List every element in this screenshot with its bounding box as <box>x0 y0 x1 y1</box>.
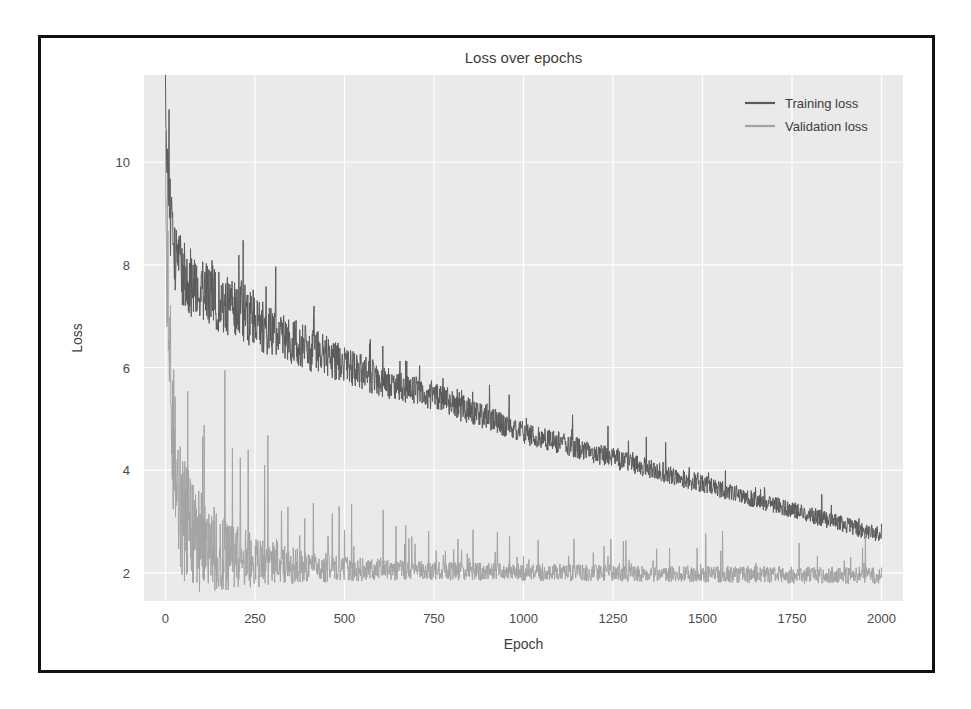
x-axis-ticks: 025050075010001250150017502000 <box>162 611 896 626</box>
y-tick-label: 10 <box>116 155 130 170</box>
x-tick-label: 1750 <box>778 611 807 626</box>
legend-label: Validation loss <box>785 119 868 134</box>
legend-label: Training loss <box>785 96 859 111</box>
chart-title: Loss over epochs <box>465 49 583 66</box>
x-tick-label: 1500 <box>688 611 717 626</box>
y-tick-label: 4 <box>123 463 130 478</box>
x-tick-label: 2000 <box>867 611 896 626</box>
y-tick-label: 6 <box>123 361 130 376</box>
x-tick-label: 750 <box>423 611 445 626</box>
y-axis-ticks: 246810 <box>116 155 130 581</box>
x-tick-label: 0 <box>162 611 169 626</box>
x-tick-label: 1250 <box>599 611 628 626</box>
y-axis-label: Loss <box>69 323 85 353</box>
x-tick-label: 250 <box>244 611 266 626</box>
y-tick-label: 8 <box>123 258 130 273</box>
y-tick-label: 2 <box>123 566 130 581</box>
x-axis-label: Epoch <box>504 636 544 652</box>
loss-over-epochs-chart: 025050075010001250150017502000 246810 Lo… <box>41 38 932 670</box>
x-tick-label: 1000 <box>509 611 538 626</box>
x-tick-label: 500 <box>334 611 356 626</box>
figure-frame: 025050075010001250150017502000 246810 Lo… <box>38 35 935 673</box>
chart-canvas: 025050075010001250150017502000 246810 Lo… <box>41 38 932 670</box>
